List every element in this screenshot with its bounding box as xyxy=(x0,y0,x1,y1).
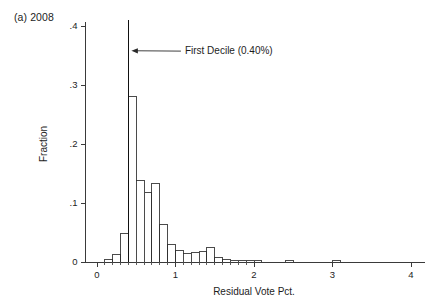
histogram-bar xyxy=(152,184,160,262)
y-tick-label: .4 xyxy=(70,20,78,31)
y-axis xyxy=(81,22,86,262)
annotation-arrow-icon xyxy=(131,48,138,53)
histogram-bar xyxy=(191,253,199,262)
histogram-bar xyxy=(128,97,136,262)
bar-series xyxy=(105,97,341,262)
y-axis-title: Fraction xyxy=(38,126,49,162)
x-tick-label: 0 xyxy=(94,269,99,280)
y-tick-label: .1 xyxy=(70,197,78,208)
histogram-bar xyxy=(160,225,168,262)
x-tick-label: 4 xyxy=(408,269,413,280)
x-tick-label: 1 xyxy=(173,269,178,280)
first-decile-annotation-label: First Decile (0.40%) xyxy=(185,45,273,56)
histogram-figure: (a) 2008 01234 0.1.2.3.4 First Decile (0… xyxy=(0,0,431,306)
chart-canvas: 01234 0.1.2.3.4 First Decile (0.40%) Res… xyxy=(0,0,431,306)
histogram-bar xyxy=(113,255,121,262)
histogram-bar xyxy=(168,244,176,262)
histogram-bar xyxy=(183,254,191,262)
histogram-bar xyxy=(121,234,129,262)
y-tick-label: .2 xyxy=(70,138,78,149)
x-tick-labels: 01234 xyxy=(94,269,413,280)
histogram-bar xyxy=(207,247,215,262)
y-tick-labels: 0.1.2.3.4 xyxy=(70,20,78,267)
x-tick-label: 2 xyxy=(251,269,256,280)
x-axis xyxy=(83,262,425,267)
x-axis-title: Residual Vote Pct. xyxy=(213,286,295,297)
histogram-bar xyxy=(215,257,223,262)
annotation-layer: First Decile (0.40%) xyxy=(131,45,272,56)
y-tick-label: .3 xyxy=(70,79,78,90)
histogram-bar xyxy=(144,192,152,262)
histogram-bar xyxy=(176,251,184,262)
histogram-bar xyxy=(199,252,207,262)
y-tick-label: 0 xyxy=(72,256,77,267)
x-tick-label: 3 xyxy=(330,269,335,280)
histogram-bar xyxy=(136,181,144,262)
